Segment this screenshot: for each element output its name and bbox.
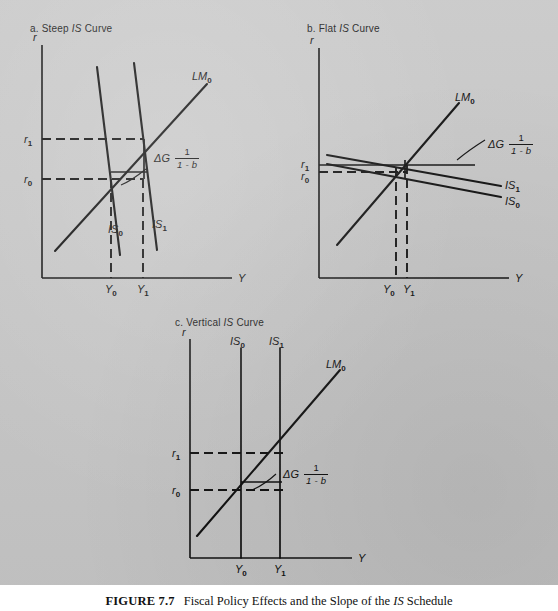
figure-caption-text: Fiscal Policy Effects and the Slope of t…: [184, 594, 453, 608]
panel-c-delta-g-annotation: ΔG 1 1 - b: [283, 463, 328, 486]
panel-a-fraction-numerator: 1: [182, 147, 193, 157]
panel-c-ytick-r0: r0: [172, 484, 181, 499]
panel-b-label-is0: IS0: [505, 195, 520, 210]
panel-c-fraction-numerator: 1: [311, 463, 322, 473]
panel-b-fraction-denominator: 1 - b: [509, 146, 534, 156]
caption-italic-term: IS: [393, 594, 403, 608]
figure-caption: FIGURE 7.7Fiscal Policy Effects and the …: [0, 594, 558, 609]
panel-a-fraction-denominator: 1 - b: [175, 160, 200, 170]
panel-b-annotation-leader: [457, 140, 485, 160]
panel-c-ytick-r1: r1: [172, 447, 181, 462]
panel-c-y-axis-label: r: [182, 326, 187, 338]
panel-c-xtick-y1: Y1: [274, 563, 286, 578]
panel-c-plot: r Y r1 r0 Y0 Y1 IS0 IS1 LM0: [140, 305, 419, 585]
panel-b-delta-g-annotation: ΔG 1 1 - b: [488, 133, 533, 156]
panel-c-delta-g-symbol: ΔG: [283, 468, 299, 480]
panel-b-label-is1: IS1: [505, 179, 520, 194]
panel-b-y-axis-label: r: [310, 34, 315, 46]
caption-prefix: Fiscal Policy Effects and the Slope of t…: [184, 594, 393, 608]
panel-a-steep-is-curve: a. Steep IS Curve r Y: [0, 0, 279, 305]
panel-c-multiplier-fraction: 1 1 - b: [304, 463, 329, 486]
panel-c-label-lm0: LM0: [326, 358, 346, 373]
panel-c-label-is0: IS0: [230, 335, 245, 350]
panel-c-label-is1: IS1: [269, 335, 284, 350]
panel-b-multiplier-fraction: 1 1 - b: [509, 133, 534, 156]
panel-a-multiplier-fraction: 1 1 - b: [175, 147, 200, 170]
panel-c-vertical-is-curve: c. Vertical IS Curve r Y r1 r0 Y0 Y1 IS0…: [140, 305, 419, 585]
panel-c-fraction-denominator: 1 - b: [304, 476, 329, 486]
panel-a-delta-g-symbol: ΔG: [154, 152, 170, 164]
panel-b-xtick-y1: Y1: [403, 283, 415, 298]
panel-a-xtick-y0: Y0: [105, 283, 117, 298]
panel-b-curve-lm0: [337, 103, 459, 245]
caption-suffix: Schedule: [404, 594, 453, 608]
panel-a-x-axis-label: Y: [238, 272, 246, 284]
panel-a-ytick-r0: r0: [24, 173, 33, 188]
panel-a-plot: r Y r1 r0 Y0 Y1 IS0 IS1 LM0: [0, 0, 279, 305]
figure-number: FIGURE 7.7: [105, 594, 174, 608]
panel-b-flat-is-curve: b. Flat IS Curve r Y r1 r0 Y0 Y1 IS1: [279, 0, 558, 305]
panel-b-delta-g-symbol: ΔG: [488, 138, 504, 150]
panel-b-fraction-numerator: 1: [516, 133, 527, 143]
panel-a-xtick-y1: Y1: [137, 283, 149, 298]
panel-a-delta-g-annotation: ΔG 1 1 - b: [154, 147, 199, 170]
figure-container: a. Steep IS Curve r Y: [0, 0, 558, 611]
panel-a-ytick-r1: r1: [24, 133, 33, 148]
panel-c-xtick-y0: Y0: [235, 563, 247, 578]
panel-c-x-axis-label: Y: [358, 552, 366, 564]
panel-b-xtick-y0: Y0: [383, 283, 395, 298]
panel-b-x-axis-label: Y: [515, 272, 523, 284]
panel-a-y-axis-label: r: [33, 31, 38, 43]
panel-a-label-lm0: LM0: [192, 70, 212, 85]
